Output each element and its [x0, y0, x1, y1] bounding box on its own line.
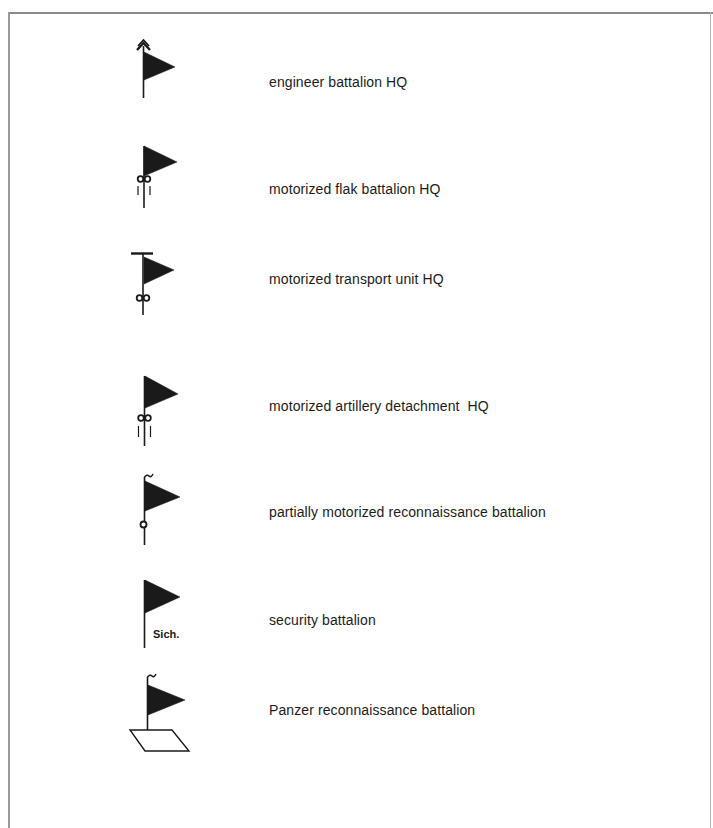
motorized-artillery-detachment-hq-flag-icon	[138, 376, 178, 446]
legend-label-partially-motorized-reconnaissance-battalion: partially motorized reconnaissance batta…	[269, 504, 546, 520]
motorized-flak-battalion-hq-flag-icon	[138, 146, 177, 208]
legend-label-motorized-flak-battalion-hq: motorized flak battalion HQ	[269, 181, 441, 197]
partially-motorized-reconnaissance-battalion-flag-icon	[141, 474, 181, 545]
legend-label-security-battalion: security battalion	[269, 612, 376, 628]
motorized-transport-unit-hq-flag-icon	[131, 253, 174, 315]
security-symbol-text: Sich.	[153, 628, 179, 640]
legend-label-panzer-reconnaissance-battalion: Panzer reconnaissance battalion	[269, 702, 475, 718]
legend-label-motorized-artillery-detachment-hq: motorized artillery detachment HQ	[269, 398, 489, 414]
panzer-reconnaissance-battalion-flag-icon	[130, 674, 189, 751]
legend-label-engineer-battalion-hq: engineer battalion HQ	[269, 74, 407, 90]
legend-label-motorized-transport-unit-hq: motorized transport unit HQ	[269, 271, 444, 287]
engineer-battalion-hq-flag-icon	[137, 40, 175, 98]
